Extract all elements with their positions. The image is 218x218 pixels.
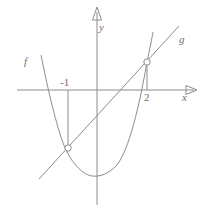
- curve-label-f: f: [24, 56, 27, 67]
- y-axis-label: y: [99, 22, 104, 33]
- graph-canvas: [0, 0, 218, 218]
- line-g-curve: [39, 26, 179, 179]
- x-tick-label-two: 2: [144, 92, 150, 103]
- graph-figure: f g y x -1 2: [0, 0, 218, 218]
- x-tick-label-neg1: -1: [60, 77, 69, 88]
- curve-label-g: g: [179, 34, 185, 45]
- x-axis-label: x: [182, 92, 187, 103]
- intersection-left-marker: [65, 145, 71, 151]
- intersection-right-marker: [144, 59, 150, 65]
